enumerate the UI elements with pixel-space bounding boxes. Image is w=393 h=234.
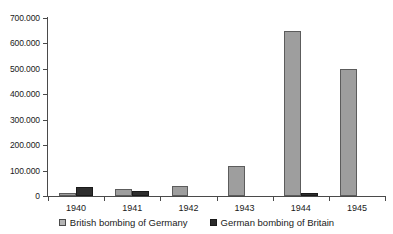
x-axis-tick bbox=[48, 196, 49, 201]
bar-1945-series-1 bbox=[340, 69, 357, 196]
german-swatch bbox=[210, 219, 217, 226]
legend-item: British bombing of Germany bbox=[59, 217, 188, 228]
y-axis-tick-label: 0 bbox=[35, 192, 40, 201]
y-axis-tick-label: 300.000 bbox=[10, 115, 40, 124]
y-axis-tick-label: 700.000 bbox=[10, 14, 40, 23]
y-axis-tick-label: 400.000 bbox=[10, 90, 40, 99]
plot-area bbox=[48, 18, 385, 196]
bar-1941-series-1 bbox=[115, 189, 132, 196]
x-axis-tick bbox=[329, 196, 330, 201]
y-axis-tick-label: 600.000 bbox=[10, 39, 40, 48]
legend-label: British bombing of Germany bbox=[70, 217, 188, 228]
bombing-tonnage-bar-chart: 0100.000200.000300.000400.000500.000600.… bbox=[0, 0, 393, 234]
x-axis-tick bbox=[160, 196, 161, 201]
y-axis-tick-label: 100.000 bbox=[10, 166, 40, 175]
x-axis-tick-label: 1945 bbox=[347, 203, 367, 214]
x-axis-tick bbox=[217, 196, 218, 201]
bar-1944-series-1 bbox=[284, 31, 301, 196]
x-axis-tick-label: 1943 bbox=[235, 203, 255, 214]
bar-1943-series-1 bbox=[228, 166, 245, 197]
legend-label: German bombing of Britain bbox=[221, 217, 335, 228]
bar-1944-series-2 bbox=[301, 193, 318, 196]
bar-1940-series-2 bbox=[76, 187, 93, 196]
legend-item: German bombing of Britain bbox=[210, 217, 335, 228]
british-swatch bbox=[59, 219, 66, 226]
bar-1940-series-1 bbox=[59, 193, 76, 196]
x-axis-tick-label: 1941 bbox=[122, 203, 142, 214]
chart-legend: British bombing of GermanyGerman bombing… bbox=[0, 217, 393, 228]
x-axis-tick-label: 1944 bbox=[291, 203, 311, 214]
x-axis-tick-label: 1940 bbox=[66, 203, 86, 214]
bar-1942-series-1 bbox=[172, 186, 189, 196]
bar-1941-series-2 bbox=[132, 191, 149, 196]
y-axis-tick-label: 500.000 bbox=[10, 64, 40, 73]
x-axis-tick bbox=[273, 196, 274, 201]
x-axis-tick bbox=[104, 196, 105, 201]
x-axis-tick-label: 1942 bbox=[178, 203, 198, 214]
x-axis-tick bbox=[385, 196, 386, 201]
y-axis-tick-label: 200.000 bbox=[10, 141, 40, 150]
